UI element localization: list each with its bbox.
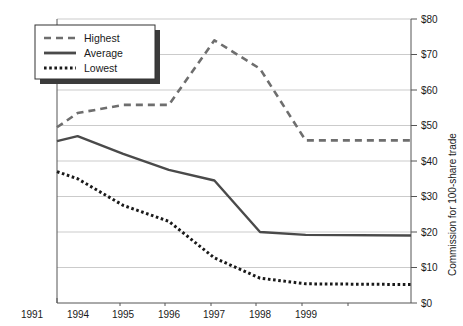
legend-label-highest: Highest: [84, 32, 120, 44]
y-tick-marks: [411, 19, 417, 303]
y-axis-title: Commission for 100-share trade: [447, 133, 458, 276]
xtick-label-1998: 1998: [249, 309, 272, 320]
xtick-label-1999: 1999: [295, 309, 318, 320]
chart-legend: Highest Average Lowest: [35, 25, 160, 84]
xtick-label-1991: 1991: [21, 309, 44, 320]
series-line-average: [57, 136, 411, 235]
legend-label-lowest: Lowest: [84, 62, 117, 74]
ytick-label-50: $50: [421, 120, 438, 131]
ytick-label-20: $20: [421, 227, 438, 238]
xtick-label-1996: 1996: [158, 309, 181, 320]
ytick-label-80: $80: [421, 14, 438, 25]
ytick-label-70: $70: [421, 49, 438, 60]
line-chart: $80 $70 $60 $50 $40 $30 $20 $10 $0 1991 …: [0, 0, 463, 326]
x-tick-marks: [57, 298, 348, 306]
xtick-label-1995: 1995: [112, 309, 135, 320]
ytick-label-0: $0: [421, 298, 433, 309]
xtick-label-1997: 1997: [203, 309, 226, 320]
chart-container: $80 $70 $60 $50 $40 $30 $20 $10 $0 1991 …: [0, 0, 463, 326]
xtick-label-1994: 1994: [67, 309, 90, 320]
ytick-label-40: $40: [421, 156, 438, 167]
ytick-label-10: $10: [421, 262, 438, 273]
ytick-label-60: $60: [421, 85, 438, 96]
x-tick-labels: 1991 1994 1995 1996 1997 1998 1999: [21, 309, 318, 320]
ytick-label-30: $30: [421, 191, 438, 202]
legend-label-average: Average: [84, 47, 123, 59]
y-tick-labels: $80 $70 $60 $50 $40 $30 $20 $10 $0: [421, 14, 438, 309]
